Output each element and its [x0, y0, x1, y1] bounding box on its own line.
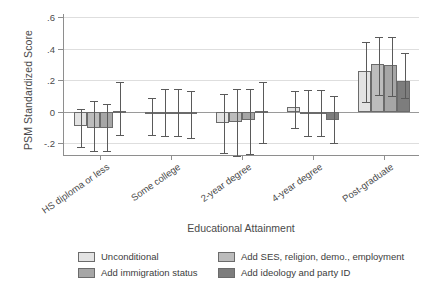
error-bar-cap-upper	[90, 101, 98, 102]
error-bar	[165, 89, 166, 136]
y-axis-tick-label: .4	[47, 43, 55, 54]
legend-item: Unconditional	[78, 250, 210, 264]
error-bar-cap-upper	[174, 89, 182, 90]
error-bar-cap-upper	[362, 42, 370, 43]
error-bar-cap-upper	[304, 90, 312, 91]
error-bar-cap-lower	[174, 136, 182, 137]
x-axis-category-label: Post-graduate	[340, 161, 395, 204]
y-axis-tick-label: -.2	[44, 138, 55, 149]
error-bar	[334, 96, 335, 143]
error-bar-cap-lower	[116, 135, 124, 136]
x-axis-tick	[384, 155, 385, 160]
error-bar-cap-lower	[90, 151, 98, 152]
error-bar-cap-upper	[103, 104, 111, 105]
bar	[242, 112, 255, 120]
error-bar-cap-lower	[317, 136, 325, 137]
y-axis-tick	[58, 80, 64, 81]
y-axis-tick	[58, 143, 64, 144]
error-bar-cap-upper	[317, 90, 325, 91]
x-axis-category-label: HS diploma or less	[39, 161, 111, 216]
error-bar	[81, 109, 82, 146]
error-bar-cap-lower	[220, 153, 228, 154]
x-axis-tick	[242, 155, 243, 160]
y-axis-tick	[58, 49, 64, 50]
legend-label: Add SES, religion, demo., employment	[241, 252, 404, 262]
error-bar-cap-upper	[233, 89, 241, 90]
x-axis-category-label: 4-year degree	[270, 161, 325, 204]
error-bar-cap-upper	[259, 82, 267, 83]
y-axis-tick-label: .2	[47, 75, 55, 86]
error-bar-cap-lower	[246, 154, 254, 155]
error-bar	[295, 91, 296, 128]
error-bar	[379, 37, 380, 95]
error-bar-cap-lower	[388, 96, 396, 97]
chart-figure: PSM Standardized Score -.20.2.4.6 HS dip…	[0, 0, 424, 292]
error-bar-cap-upper	[148, 98, 156, 99]
x-axis-category-label: 2-year degree	[199, 161, 254, 204]
error-bar-cap-upper	[187, 91, 195, 92]
y-axis-tick-label: .6	[47, 12, 55, 23]
error-bar-cap-lower	[77, 147, 85, 148]
legend-label: Add immigration status	[101, 268, 198, 278]
error-bar	[107, 104, 108, 151]
legend-label: Add ideology and party ID	[241, 268, 350, 278]
error-bar	[405, 53, 406, 97]
gridline	[64, 17, 419, 18]
x-axis-tick	[171, 155, 172, 160]
error-bar-cap-upper	[375, 37, 383, 38]
error-bar	[120, 82, 121, 135]
error-bar-cap-lower	[103, 151, 111, 152]
error-bar-cap-lower	[330, 143, 338, 144]
error-bar-cap-upper	[401, 53, 409, 54]
error-bar-cap-lower	[161, 136, 169, 137]
plot-area: -.20.2.4.6	[63, 14, 419, 156]
legend-swatch	[78, 268, 95, 278]
x-axis-tick	[313, 155, 314, 160]
x-axis-tick	[100, 155, 101, 160]
error-bar	[321, 90, 322, 137]
error-bar	[392, 37, 393, 96]
bar	[229, 112, 242, 122]
chart-legend: UnconditionalAdd SES, religion, demo., e…	[78, 250, 378, 280]
error-bar-cap-lower	[304, 136, 312, 137]
y-axis-tick-label: 0	[50, 106, 55, 117]
error-bar-cap-lower	[259, 143, 267, 144]
error-bar	[152, 98, 153, 135]
y-axis-tick	[58, 17, 64, 18]
x-axis-title: Educational Attainment	[63, 222, 419, 234]
error-bar	[263, 82, 264, 144]
error-bar-cap-upper	[161, 89, 169, 90]
error-bar-cap-lower	[362, 102, 370, 103]
error-bar-cap-upper	[330, 96, 338, 97]
error-bar-cap-upper	[116, 82, 124, 83]
error-bar-cap-upper	[246, 89, 254, 90]
error-bar	[308, 90, 309, 137]
legend-swatch	[218, 252, 235, 262]
error-bar-cap-upper	[388, 37, 396, 38]
bar	[216, 112, 229, 123]
gridline	[64, 143, 419, 144]
error-bar	[366, 42, 367, 101]
error-bar	[178, 89, 179, 136]
legend-item: Add immigration status	[78, 266, 210, 280]
error-bar-cap-lower	[148, 135, 156, 136]
error-bar-cap-upper	[220, 94, 228, 95]
x-axis-category-label: Some college	[129, 161, 182, 203]
error-bar	[191, 91, 192, 138]
error-bar	[237, 89, 238, 156]
error-bar-cap-lower	[233, 156, 241, 157]
error-bar	[250, 89, 251, 154]
error-bar-cap-lower	[187, 138, 195, 139]
error-bar-cap-upper	[77, 109, 85, 110]
error-bar	[94, 101, 95, 151]
error-bar-cap-lower	[291, 128, 299, 129]
legend-item: Add ideology and party ID	[218, 266, 404, 280]
legend-label: Unconditional	[101, 252, 159, 262]
error-bar-cap-lower	[375, 95, 383, 96]
bar	[255, 111, 268, 113]
y-axis-title: PSM Standardized Score	[22, 10, 34, 170]
error-bar-cap-upper	[291, 91, 299, 92]
error-bar-cap-lower	[401, 98, 409, 99]
legend-swatch	[78, 252, 95, 262]
legend-swatch	[218, 268, 235, 278]
